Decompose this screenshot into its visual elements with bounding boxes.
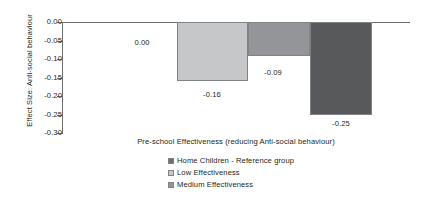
data-label-high-effectiveness: -0.25 bbox=[321, 119, 361, 128]
y-tick-label: 0.00 bbox=[10, 18, 62, 26]
y-tick-label: -0.20 bbox=[10, 92, 62, 100]
legend-swatch-icon bbox=[168, 170, 174, 176]
bar-low-effectiveness bbox=[177, 22, 248, 81]
y-tick-label: -0.15 bbox=[10, 74, 62, 82]
y-tick-label: -0.30 bbox=[10, 129, 62, 137]
legend-label: Low Effectiveness bbox=[177, 168, 240, 177]
legend-item-medium-effectiveness: Medium Effectiveness bbox=[168, 179, 294, 190]
data-label-low-effectiveness: -0.16 bbox=[192, 90, 232, 99]
legend-swatch-icon bbox=[168, 182, 174, 188]
legend-item-low-effectiveness: Low Effectiveness bbox=[168, 167, 294, 178]
bar-medium-effectiveness bbox=[248, 22, 310, 56]
y-tick-label: -0.05 bbox=[10, 37, 62, 45]
y-tick-label: -0.10 bbox=[10, 55, 62, 63]
legend-label: Medium Effectiveness bbox=[177, 180, 253, 189]
chart-legend: Home Children - Reference group Low Effe… bbox=[168, 155, 294, 190]
y-tick-label: -0.25 bbox=[10, 111, 62, 119]
bar-chart: Effect Size: Anti-social behaviour 0.00 … bbox=[0, 0, 444, 199]
legend-label: Home Children - Reference group bbox=[177, 156, 294, 165]
legend-swatch-icon bbox=[168, 158, 174, 164]
data-label-medium-effectiveness: -0.09 bbox=[253, 68, 293, 77]
data-label-home-children: 0.00 bbox=[122, 38, 162, 47]
bar-high-effectiveness bbox=[310, 22, 372, 115]
x-axis-title: Pre-school Effectiveness (reducing Anti-… bbox=[62, 137, 410, 147]
legend-item-home-children: Home Children - Reference group bbox=[168, 155, 294, 166]
plot-area bbox=[62, 22, 410, 133]
